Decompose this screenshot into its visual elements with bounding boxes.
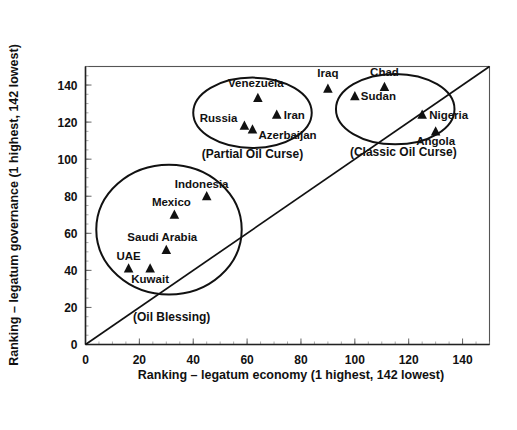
scatter-plot: VenezuelaIraqIranRussiaAzerbaijanChadSud… — [0, 0, 517, 430]
data-marker — [162, 245, 172, 254]
data-marker — [248, 124, 258, 133]
cluster-outlines — [96, 74, 454, 295]
y-tick-label: 40 — [64, 264, 78, 278]
data-marker — [253, 93, 263, 102]
y-axis-title: Ranking – legatum governance (1 highest,… — [7, 44, 21, 366]
data-marker — [323, 84, 333, 93]
cluster-label-text: (Classic Oil Curse) — [350, 145, 457, 159]
data-point-label: Mexico — [152, 196, 191, 208]
cluster-label-text: (Oil Blessing) — [133, 310, 210, 324]
x-tick-label: 40 — [187, 353, 201, 367]
x-tick-label: 60 — [240, 353, 254, 367]
data-point-label: Sudan — [361, 90, 396, 102]
x-tick-label: 120 — [399, 353, 419, 367]
y-tick-label: 80 — [64, 190, 78, 204]
data-marker — [240, 121, 250, 130]
data-point-label: Chad — [370, 66, 399, 78]
x-tick-label: 20 — [133, 353, 147, 367]
chart-container: VenezuelaIraqIranRussiaAzerbaijanChadSud… — [0, 0, 517, 430]
data-point-label: Azerbaijan — [258, 129, 316, 141]
x-tick-label: 100 — [345, 353, 365, 367]
cluster-label-text: (Partial Oil Curse) — [202, 147, 303, 161]
data-markers — [124, 82, 441, 273]
data-point-label: Saudi Arabia — [127, 231, 197, 243]
data-point-label: UAE — [116, 250, 141, 262]
x-tick-label: 140 — [453, 353, 473, 367]
y-tick-label: 0 — [71, 338, 78, 352]
x-tick-label: 80 — [294, 353, 308, 367]
x-tick-label: 0 — [82, 353, 89, 367]
x-axis-title: Ranking – legatum economy (1 highest, 14… — [138, 368, 444, 382]
data-marker — [170, 210, 180, 219]
data-point-label: Indonesia — [175, 178, 229, 190]
y-tick-label: 20 — [64, 301, 78, 315]
y-tick-label: 120 — [57, 116, 77, 130]
data-marker — [350, 91, 360, 100]
data-point-label: Iran — [284, 109, 305, 121]
data-point-label: Russia — [200, 112, 238, 124]
y-tick-label: 140 — [57, 79, 77, 93]
data-marker — [145, 263, 155, 272]
y-axis-tick-labels: 020406080100120140 — [57, 79, 77, 352]
x-axis-tick-labels: 020406080100120140 — [82, 353, 473, 367]
y-tick-label: 100 — [57, 153, 77, 167]
data-marker — [124, 263, 134, 272]
data-point-label: Iraq — [317, 67, 338, 79]
data-marker — [272, 109, 282, 118]
data-marker — [431, 126, 441, 135]
data-marker — [202, 191, 212, 200]
y-tick-label: 60 — [64, 227, 78, 241]
data-point-label: Nigeria — [429, 109, 469, 121]
data-point-label: Kuwait — [131, 273, 169, 285]
data-point-label: Venezuela — [228, 77, 284, 89]
